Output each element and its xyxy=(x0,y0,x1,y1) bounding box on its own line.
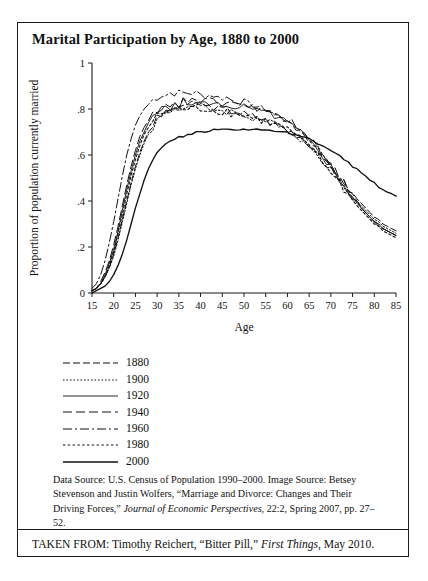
y-tick-label: 1 xyxy=(80,58,85,69)
x-tick-label: 40 xyxy=(195,300,206,311)
x-axis-title: Age xyxy=(234,321,253,334)
legend-swatch-1960 xyxy=(62,423,119,435)
legend-item-1880[interactable]: 1880 xyxy=(62,355,272,371)
chart-plot-area: 0.2.4.6.81152025303540455055606570758085… xyxy=(18,51,408,371)
x-tick-label: 60 xyxy=(282,300,293,311)
x-tick-label: 15 xyxy=(87,300,98,311)
legend-swatch-1900 xyxy=(62,374,119,386)
legend-swatch-2000 xyxy=(62,456,119,468)
series-line-1920 xyxy=(92,99,396,291)
attribution-publication: First Things xyxy=(261,538,318,551)
divider xyxy=(18,529,408,530)
x-tick-label: 65 xyxy=(304,300,315,311)
y-tick-label: .2 xyxy=(77,242,85,253)
x-tick-label: 55 xyxy=(260,300,271,311)
y-tick-label: .8 xyxy=(77,104,85,115)
legend-label-1940: 1940 xyxy=(126,407,149,419)
series-line-1960 xyxy=(92,90,396,288)
x-tick-label: 70 xyxy=(326,300,337,311)
legend-label-1920: 1920 xyxy=(126,390,149,402)
legend-swatch-1940 xyxy=(62,406,119,418)
x-tick-label: 25 xyxy=(130,300,141,311)
y-axis-title: Proportion of population currently marri… xyxy=(28,79,41,276)
source-note-journal: Journal of Economic Perspectives xyxy=(123,503,261,514)
x-tick-label: 30 xyxy=(152,300,163,311)
series-line-1900 xyxy=(92,103,396,290)
series-line-1940 xyxy=(92,98,396,291)
x-tick-label: 75 xyxy=(347,300,358,311)
x-tick-label: 85 xyxy=(391,300,402,311)
legend-item-1920[interactable]: 1920 xyxy=(62,388,272,404)
legend-label-1980: 1980 xyxy=(126,439,149,451)
legend-item-1940[interactable]: 1940 xyxy=(62,404,272,420)
series-line-1980 xyxy=(92,106,396,290)
x-tick-label: 35 xyxy=(174,300,185,311)
legend-label-2000: 2000 xyxy=(126,456,149,468)
attribution-text-2: , May 2010. xyxy=(318,538,374,551)
legend-label-1960: 1960 xyxy=(126,423,149,435)
legend-swatch-1920 xyxy=(62,390,119,402)
attribution-text-1: TAKEN FROM: Timothy Reichert, “Bitter Pi… xyxy=(32,538,261,551)
y-tick-label: 0 xyxy=(80,288,85,299)
attribution: TAKEN FROM: Timothy Reichert, “Bitter Pi… xyxy=(32,537,397,552)
legend-item-2000[interactable]: 2000 xyxy=(62,453,272,469)
x-tick-label: 45 xyxy=(217,300,228,311)
x-tick-label: 50 xyxy=(239,300,250,311)
figure-frame: Marital Participation by Age, 1880 to 20… xyxy=(17,22,409,557)
y-tick-label: .4 xyxy=(77,196,86,207)
legend-item-1980[interactable]: 1980 xyxy=(62,437,272,453)
legend-item-1960[interactable]: 1960 xyxy=(62,421,272,437)
page-title: Marital Participation by Age, 1880 to 20… xyxy=(32,31,299,48)
x-tick-label: 20 xyxy=(108,300,119,311)
marital-participation-line-chart: 0.2.4.6.81152025303540455055606570758085… xyxy=(18,51,408,371)
legend-label-1900: 1900 xyxy=(126,374,149,386)
legend-swatch-1980 xyxy=(62,439,119,451)
series-line-2000 xyxy=(92,129,396,293)
chart-legend: 1880190019201940196019802000 xyxy=(62,355,272,470)
source-note: Data Source: U.S. Census of Population 1… xyxy=(53,473,383,530)
x-tick-label: 80 xyxy=(369,300,380,311)
legend-label-1880: 1880 xyxy=(126,357,149,369)
y-tick-label: .6 xyxy=(77,150,85,161)
legend-swatch-1880 xyxy=(62,357,119,369)
legend-item-1900[interactable]: 1900 xyxy=(62,371,272,387)
